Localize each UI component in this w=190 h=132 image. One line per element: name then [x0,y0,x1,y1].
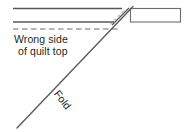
wrong-side-of-quilt-top-label: Wrong side of quilt top [14,34,68,57]
quilting-diagram: Wrong side of quilt top Fold [0,0,190,132]
wrong-side-label-line1: Wrong side [14,33,68,45]
wrong-side-label-line2: of quilt top [14,46,68,58]
fold-diagonal-line [17,7,133,129]
binding-fold-diagonal-line [112,8,129,25]
binding-strip-rect [131,9,181,23]
diagram-canvas [0,0,190,132]
